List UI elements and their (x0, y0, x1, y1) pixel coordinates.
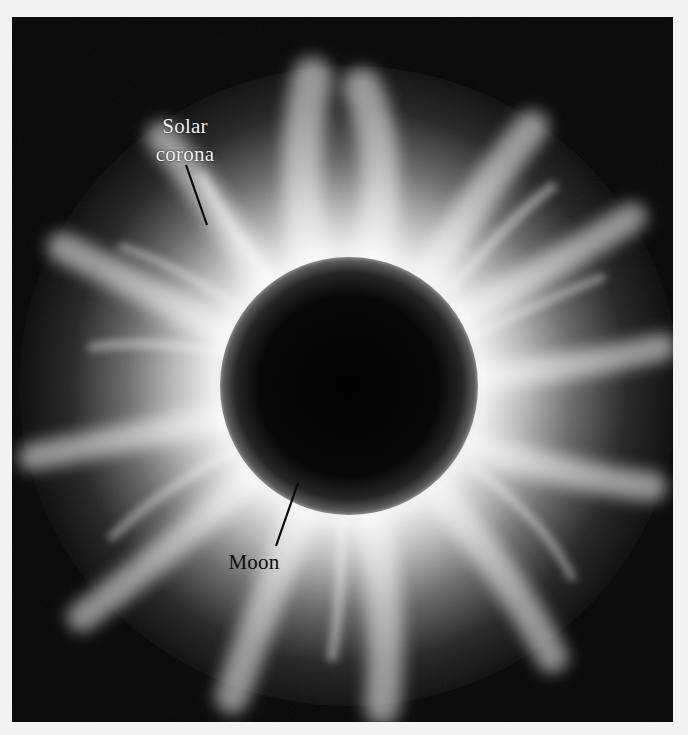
solar-corona-label-line2: corona (137, 140, 233, 168)
moon-disk (220, 257, 478, 515)
moon-label: Moon (216, 548, 292, 576)
solar-corona-label: Solar corona (137, 112, 233, 168)
eclipse-photo: Solar corona Moon (12, 17, 673, 722)
corona-illustration (12, 17, 673, 722)
solar-corona-label-line1: Solar (137, 112, 233, 140)
